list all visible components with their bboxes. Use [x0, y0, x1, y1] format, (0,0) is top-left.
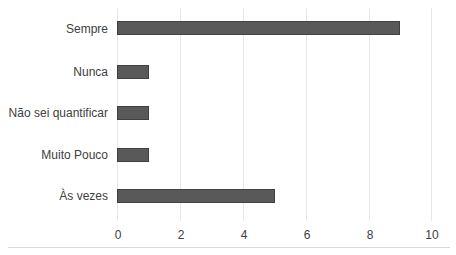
bar-nunca — [117, 65, 149, 79]
category-label: Nunca — [73, 65, 108, 79]
plot-area — [117, 8, 432, 221]
x-tick-label: 6 — [304, 228, 311, 242]
bar-sempre — [117, 21, 400, 35]
bar-chart: Sempre Nunca Não sei quantificar Muito P… — [0, 0, 456, 255]
x-tick-label: 2 — [178, 228, 185, 242]
x-tick-label: 8 — [367, 228, 374, 242]
bar-as-vezes — [117, 189, 275, 203]
category-label: Sempre — [66, 22, 108, 36]
x-tick-label: 10 — [425, 228, 438, 242]
category-label: Muito Pouco — [41, 148, 108, 162]
bar-muito-pouco — [117, 148, 149, 162]
bar-nao-sei-quantificar — [117, 106, 149, 120]
gridline — [431, 8, 432, 221]
chart-border-bottom — [8, 247, 450, 248]
gridline — [369, 8, 370, 221]
gridline — [306, 8, 307, 221]
category-label: Não sei quantificar — [9, 106, 108, 120]
category-label: Às vezes — [59, 189, 108, 203]
x-tick-label: 4 — [241, 228, 248, 242]
x-tick-label: 0 — [115, 228, 122, 242]
